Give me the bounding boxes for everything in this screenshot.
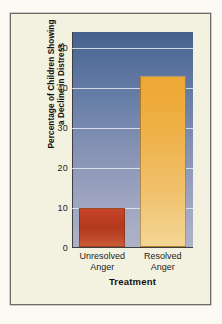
x-tick-label-line: Unresolved	[79, 251, 125, 262]
x-axis-title: Treatment	[72, 276, 193, 287]
y-axis-title: Percentage of Children Showing a Decline…	[47, 0, 67, 192]
y-axis-title-line-2: a Decline in Distress	[57, 0, 67, 192]
x-tick-label-1: ResolvedAnger	[144, 251, 182, 273]
x-tick-label-line: Resolved	[144, 251, 182, 262]
bar-unresolved-anger[interactable]	[79, 208, 125, 247]
x-tick-label-line: Anger	[144, 262, 182, 273]
x-tick-label-0: UnresolvedAnger	[79, 251, 125, 273]
y-tick-label-10: 10	[58, 203, 68, 213]
y-tick-label-0: 0	[63, 243, 68, 253]
figure-canvas: 01020304050 UnresolvedAngerResolvedAnger…	[0, 0, 222, 324]
chart-card: 01020304050 UnresolvedAngerResolvedAnger…	[10, 13, 211, 305]
y-axis-title-line-1: Percentage of Children Showing	[47, 0, 57, 192]
gridline-50	[72, 48, 193, 49]
bar-resolved-anger[interactable]	[140, 76, 186, 247]
x-tick-label-line: Anger	[79, 262, 125, 273]
plot-region: 01020304050 UnresolvedAngerResolvedAnger	[72, 32, 193, 248]
